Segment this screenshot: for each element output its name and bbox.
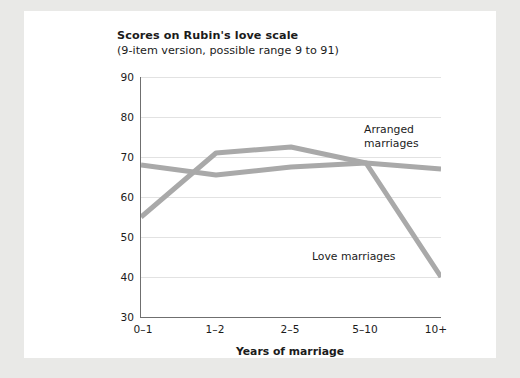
figure-canvas: Scores on Rubin's love scale (9-item ver… <box>0 0 520 378</box>
x-axis-title: Years of marriage <box>140 345 440 358</box>
y-axis-tick-label: 60 <box>108 191 134 203</box>
series-annotation-arranged: Arranged marriages <box>364 123 419 150</box>
series-lines <box>141 77 441 317</box>
plot-area <box>140 77 441 318</box>
y-axis-tick-label: 80 <box>108 111 134 123</box>
y-axis-tick-label: 50 <box>108 231 134 243</box>
y-axis-tick-label: 90 <box>108 71 134 83</box>
y-axis-tick-labels: 90807060504030 <box>108 77 134 317</box>
x-axis-tick-label: 2–5 <box>281 323 300 335</box>
chart-title: Scores on Rubin's love scale <box>117 28 447 43</box>
annotation-love-line1: Love marriages <box>312 250 395 264</box>
x-axis-tick-label: 1–2 <box>206 323 225 335</box>
x-axis-tick-label: 0–1 <box>134 323 153 335</box>
y-axis-tick-label: 70 <box>108 151 134 163</box>
x-axis-tick-label: 5–10 <box>352 323 378 335</box>
chart-subtitle: (9-item version, possible range 9 to 91) <box>117 43 447 58</box>
x-axis-tick-label: 10+ <box>425 323 447 335</box>
annotation-arranged-line1: Arranged <box>364 123 419 137</box>
annotation-arranged-line2: marriages <box>364 137 419 151</box>
chart-card: Scores on Rubin's love scale (9-item ver… <box>24 11 496 358</box>
series-line <box>141 163 441 175</box>
title-block: Scores on Rubin's love scale (9-item ver… <box>117 28 447 58</box>
series-annotation-love: Love marriages <box>312 250 395 264</box>
x-axis-tick-labels: 0–11–22–55–1010+ <box>140 323 440 339</box>
y-axis-tick-label: 30 <box>108 311 134 323</box>
y-axis-tick-label: 40 <box>108 271 134 283</box>
